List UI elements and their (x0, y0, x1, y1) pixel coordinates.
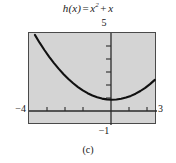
y-axis-ticks (106, 46, 111, 98)
x-axis-min-label: −4 (2, 103, 26, 114)
function-graph-figure: h(x)=x2+x (0, 0, 176, 163)
parabola-curve (35, 35, 155, 100)
figure-caption: (c) (0, 144, 176, 155)
title-plus-sign: + (99, 2, 108, 14)
x-axis-max-label: 3 (158, 103, 174, 114)
figure-title: h(x)=x2+x (0, 2, 176, 14)
y-axis-max-label: 5 (94, 17, 114, 28)
y-axis-min-label: −1 (92, 125, 116, 136)
plot-area-svg (29, 33, 157, 125)
title-term-two: x (108, 2, 113, 14)
title-equals-sign: = (81, 2, 90, 14)
plot-panel (28, 32, 156, 124)
title-function-name: h(x) (63, 2, 81, 14)
